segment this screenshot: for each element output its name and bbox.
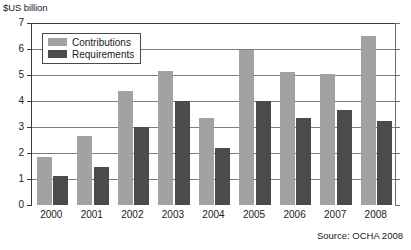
bar-requirements-2002 <box>134 127 149 205</box>
x-axis-tick-label: 2000 <box>31 209 72 220</box>
y-axis-tick-right <box>395 101 400 102</box>
y-axis-tick-right <box>395 75 400 76</box>
legend-swatch-requirements-icon <box>48 50 67 58</box>
y-axis-tick-label: 4 <box>18 96 24 106</box>
bar-contributions-2000 <box>37 157 52 205</box>
x-axis-tick-label: 2006 <box>274 209 315 220</box>
bar-group <box>158 23 190 205</box>
y-axis-tick-label: 3 <box>18 122 24 132</box>
bar-group <box>199 23 231 205</box>
bar-requirements-2004 <box>215 148 230 205</box>
x-axis-tick-label: 2002 <box>112 209 153 220</box>
bar-contributions-2002 <box>118 91 133 205</box>
x-axis-tick-label: 2005 <box>234 209 275 220</box>
y-axis-tick-label: 2 <box>18 148 24 158</box>
legend-label-requirements: Requirements <box>72 49 134 60</box>
bar-requirements-2003 <box>175 101 190 205</box>
bar-group <box>361 23 393 205</box>
x-axis-tick-label: 2003 <box>153 209 194 220</box>
y-axis-tick-right <box>395 49 400 50</box>
y-axis-tick-label: 0 <box>18 200 24 210</box>
x-axis-tick-label: 2008 <box>355 209 396 220</box>
bar-contributions-2006 <box>280 72 295 205</box>
bar-requirements-2007 <box>337 110 352 205</box>
y-axis-tick-right <box>395 127 400 128</box>
bar-requirements-2005 <box>256 101 271 205</box>
legend-swatch-contributions-icon <box>48 38 67 46</box>
x-axis-tick-label: 2004 <box>193 209 234 220</box>
y-axis-tick-right <box>395 205 400 206</box>
y-axis-tick <box>27 75 32 76</box>
y-axis-tick <box>27 49 32 50</box>
chart-legend: Contributions Requirements <box>42 33 141 64</box>
bar-contributions-2008 <box>361 36 376 205</box>
y-axis-tick-label: 7 <box>18 18 24 28</box>
y-axis-tick-right <box>395 179 400 180</box>
y-axis-tick-label: 1 <box>18 174 24 184</box>
bar-requirements-2008 <box>377 121 392 206</box>
x-axis-baseline <box>32 23 395 24</box>
bar-requirements-2006 <box>296 118 311 205</box>
x-axis-tick-label: 2001 <box>72 209 113 220</box>
y-axis-tick-right <box>395 153 400 154</box>
bar-contributions-2005 <box>239 50 254 205</box>
legend-item-contributions: Contributions <box>48 36 134 48</box>
source-note: Source: OCHA 2008 <box>317 230 403 241</box>
bar-group <box>280 23 312 205</box>
bar-contributions-2004 <box>199 118 214 205</box>
bar-requirements-2001 <box>94 167 109 205</box>
y-axis-tick <box>27 205 32 206</box>
legend-label-contributions: Contributions <box>72 37 131 48</box>
y-axis-tick <box>27 179 32 180</box>
y-axis-tick <box>27 127 32 128</box>
y-axis-tick-label: 6 <box>18 44 24 54</box>
bar-requirements-2000 <box>53 176 68 205</box>
bar-group <box>320 23 352 205</box>
bar-contributions-2001 <box>77 136 92 205</box>
bar-group <box>239 23 271 205</box>
bar-contributions-2007 <box>320 74 335 205</box>
x-axis-tick-label: 2007 <box>315 209 356 220</box>
y-axis-title: $US billion <box>3 2 47 13</box>
legend-item-requirements: Requirements <box>48 48 134 60</box>
y-axis-tick <box>27 153 32 154</box>
y-axis-tick-right <box>395 23 400 24</box>
y-axis-tick <box>27 23 32 24</box>
y-axis-tick <box>27 101 32 102</box>
y-axis-tick-label: 5 <box>18 70 24 80</box>
bar-contributions-2003 <box>158 71 173 205</box>
humanitarian-funding-bar-chart: $US billion 01234567 2000200120022003200… <box>0 0 411 250</box>
